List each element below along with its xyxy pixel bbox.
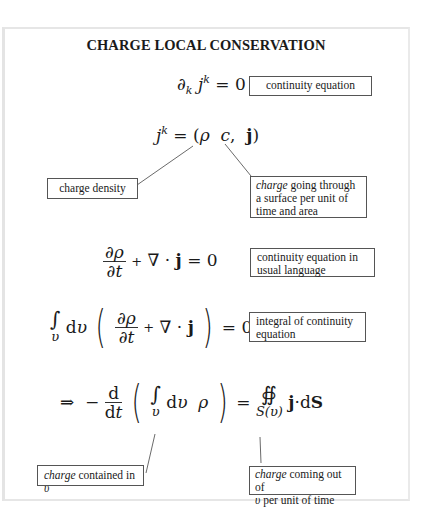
equation-continuity-covariant: ∂k jk = 0 bbox=[177, 73, 246, 97]
index-k-sup: k bbox=[203, 73, 210, 86]
right-big-paren: ) bbox=[217, 380, 227, 424]
charge-italic: charge bbox=[44, 469, 76, 481]
fraction-drho-dt: ∂ρ ∂t bbox=[103, 243, 126, 280]
volume-integral: ∫ υ bbox=[150, 384, 160, 420]
note-charge-outflow: charge coming out ofυ per unit of time bbox=[249, 466, 356, 495]
note-continuity-usual: continuity equation in usual language bbox=[250, 248, 375, 277]
surface-limit: S(υ) bbox=[256, 404, 283, 420]
equals-zero: = 0 bbox=[182, 250, 218, 270]
var-rho: ρ bbox=[114, 242, 124, 262]
var-c: c bbox=[220, 125, 230, 145]
index-k: k bbox=[186, 84, 193, 97]
comma: , bbox=[230, 125, 235, 145]
right-big-paren: ) bbox=[203, 305, 213, 349]
note-charge-contained: charge contained in υ bbox=[37, 465, 144, 486]
note-continuity-equation: continuity equation bbox=[249, 76, 372, 96]
var-rho: ρ bbox=[200, 125, 210, 145]
right-paren: ) bbox=[252, 125, 259, 145]
differential-d: d bbox=[105, 402, 116, 422]
note-current-density: charge going through a surface per unit … bbox=[250, 176, 367, 218]
fraction-d-dt: d dt bbox=[105, 384, 123, 421]
leader-line-contained bbox=[146, 434, 155, 473]
partial-symbol: ∂ bbox=[117, 308, 126, 328]
note-charge-density: charge density bbox=[47, 178, 138, 199]
dot-operator: · bbox=[165, 250, 170, 270]
differential-d: d bbox=[166, 392, 177, 412]
differential-d: d bbox=[300, 392, 311, 412]
integral-limit: υ bbox=[50, 329, 60, 345]
equation-integral-continuity: ∫ υ dυ ( ∂ρ ∂t + ∇ · j ) = 0 bbox=[50, 305, 252, 349]
equals-sign: = bbox=[231, 392, 256, 412]
closed-surface-integral: ∯ S(υ) bbox=[256, 384, 283, 420]
charge-italic: charge bbox=[256, 179, 288, 191]
partial-symbol: ∂ bbox=[105, 242, 114, 262]
volume-integral: ∫ υ bbox=[50, 309, 60, 345]
vector-j: j bbox=[188, 317, 194, 337]
dot-operator: · bbox=[177, 317, 182, 337]
var-rho: ρ bbox=[126, 308, 136, 328]
surface-integral-icon: ∯ bbox=[256, 384, 283, 404]
equals-zero: = 0 bbox=[216, 317, 252, 337]
nabla-symbol: ∇ bbox=[160, 317, 172, 337]
equation-global-conservation: ⇒ − d dt ( ∫ υ dυ ρ ) = ∯ S(υ) j·dS bbox=[60, 380, 323, 424]
nabla-symbol: ∇ bbox=[148, 250, 160, 270]
var-rho: ρ bbox=[198, 392, 208, 412]
minus-sign: − bbox=[85, 392, 99, 412]
numerator-d: d bbox=[105, 384, 123, 403]
note-integral-continuity: integral of continuity equation bbox=[249, 312, 366, 342]
equation-four-current: jk = (ρ c, j) bbox=[156, 124, 259, 145]
note-text: contained in bbox=[76, 469, 135, 481]
equals-sign: = bbox=[168, 125, 193, 145]
differential-d: d bbox=[66, 317, 77, 337]
var-v: υ bbox=[44, 482, 49, 494]
left-paren: ( bbox=[193, 125, 200, 145]
left-big-paren: ( bbox=[131, 380, 141, 424]
partial-symbol: ∂ bbox=[177, 74, 186, 94]
equation-continuity-usual: ∂ρ ∂t + ∇ · j = 0 bbox=[103, 243, 218, 280]
fraction-drho-dt: ∂ρ ∂t bbox=[115, 309, 138, 346]
implies-arrow: ⇒ bbox=[60, 392, 74, 412]
leader-line-charge-density bbox=[137, 146, 193, 185]
leader-line-outflow bbox=[260, 437, 261, 463]
var-v: υ bbox=[77, 317, 87, 337]
integral-icon: ∫ bbox=[50, 309, 60, 329]
plus-sign: + bbox=[143, 320, 154, 335]
var-t: t bbox=[116, 402, 123, 422]
equals-zero: = 0 bbox=[210, 74, 246, 94]
leader-line-current bbox=[225, 144, 251, 176]
integral-icon: ∫ bbox=[150, 384, 160, 404]
integral-limit: υ bbox=[150, 404, 160, 420]
note-text: per unit of time bbox=[260, 494, 334, 506]
left-big-paren: ( bbox=[96, 305, 106, 349]
index-k-sup: k bbox=[161, 124, 168, 137]
var-v: υ bbox=[177, 392, 187, 412]
var-t: t bbox=[127, 327, 134, 347]
charge-italic: charge bbox=[255, 468, 287, 480]
vector-S: S bbox=[311, 392, 323, 412]
var-t: t bbox=[115, 261, 122, 281]
plus-sign: + bbox=[131, 254, 142, 269]
